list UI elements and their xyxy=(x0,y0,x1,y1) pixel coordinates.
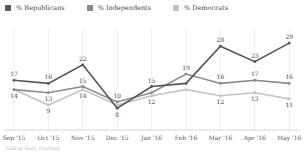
data-label: 15 xyxy=(79,77,87,84)
data-label: 13 xyxy=(251,95,259,102)
data-point xyxy=(150,91,153,94)
data-point xyxy=(47,91,50,94)
data-label: 23 xyxy=(251,52,259,59)
data-label: 14 xyxy=(10,92,18,99)
data-point xyxy=(13,79,16,82)
data-label: 9 xyxy=(46,107,50,114)
x-tick-label: Jan '16 xyxy=(140,134,162,142)
source-note: Gallup Daily tracking xyxy=(6,145,60,151)
x-tick-label: Nov '15 xyxy=(71,134,95,141)
data-label: 17 xyxy=(10,70,18,77)
x-tick-label: Dec '15 xyxy=(106,134,129,141)
data-point xyxy=(253,91,256,94)
data-label: 22 xyxy=(79,55,87,62)
data-label: 12 xyxy=(148,98,156,105)
x-tick-label: Apr '16 xyxy=(243,134,266,142)
data-point xyxy=(116,107,119,110)
data-point xyxy=(116,101,119,104)
data-point xyxy=(150,94,153,97)
data-label: 10 xyxy=(113,92,121,99)
x-tick-label: May '16 xyxy=(277,134,301,142)
data-label: 12 xyxy=(217,98,225,105)
line-chart: Sep '15Oct '15Nov '15Dec '15Jan '16Feb '… xyxy=(0,0,308,155)
data-label: 16 xyxy=(45,73,53,80)
data-label: 16 xyxy=(217,73,225,80)
data-point xyxy=(219,94,222,97)
x-tick-label: Feb '16 xyxy=(175,134,198,141)
data-point xyxy=(219,45,222,48)
data-label: 11 xyxy=(285,101,293,108)
x-tick-label: Mar '16 xyxy=(209,134,233,141)
data-label: 13 xyxy=(45,95,53,102)
data-point xyxy=(185,88,188,91)
data-point xyxy=(288,42,291,45)
data-label: 15 xyxy=(148,77,156,84)
data-label: 19 xyxy=(182,64,190,71)
data-point xyxy=(47,104,50,107)
data-label: 14 xyxy=(79,92,87,99)
data-point xyxy=(253,60,256,63)
x-tick-label: Sep '15 xyxy=(3,134,26,142)
data-point xyxy=(219,82,222,85)
data-label: 16 xyxy=(285,73,293,80)
data-point xyxy=(13,88,16,91)
data-point xyxy=(185,73,188,76)
data-point xyxy=(81,85,84,88)
data-point xyxy=(47,82,50,85)
data-label: 28 xyxy=(217,36,225,43)
data-point xyxy=(150,85,153,88)
data-label: 29 xyxy=(285,33,293,40)
data-point xyxy=(81,63,84,66)
data-point xyxy=(81,88,84,91)
data-label: 17 xyxy=(251,70,259,77)
data-point xyxy=(288,98,291,101)
data-point xyxy=(288,82,291,85)
data-point xyxy=(253,79,256,82)
data-point xyxy=(185,82,188,85)
x-tick-label: Oct '15 xyxy=(37,134,59,141)
data-label: 8 xyxy=(115,111,119,118)
